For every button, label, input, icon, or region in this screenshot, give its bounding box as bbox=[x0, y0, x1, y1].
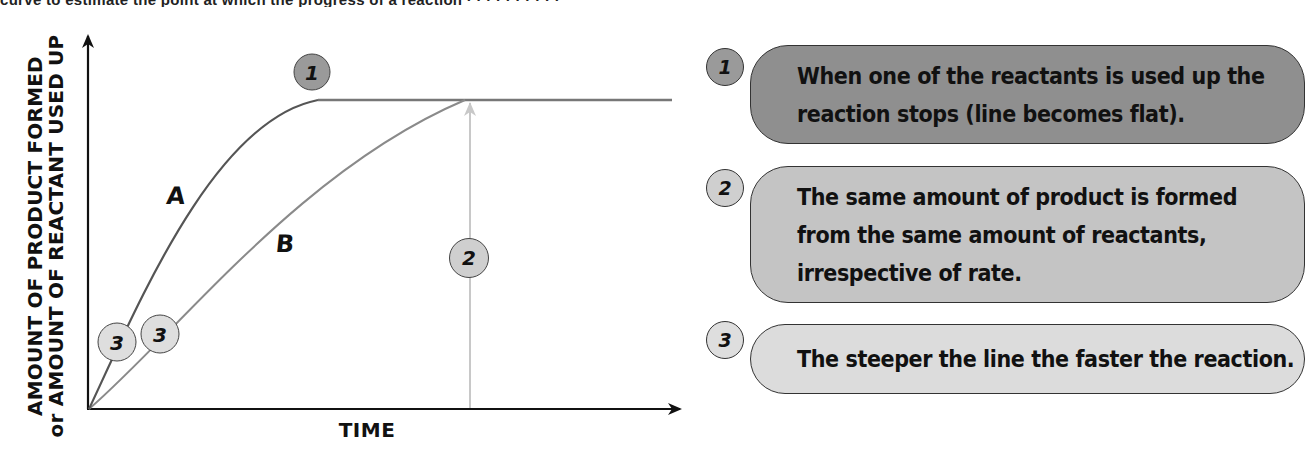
chart-canvas bbox=[0, 0, 700, 455]
callout-2-line-3: irrespective of rate. bbox=[797, 254, 1294, 292]
callout-box-2: The same amount of product is formed fro… bbox=[750, 166, 1305, 303]
y-axis-label-line-1: AMOUNT OF PRODUCT FORMED bbox=[25, 35, 46, 438]
callout-box-3: The steeper the line the faster the reac… bbox=[750, 324, 1305, 394]
curve-a-label: A bbox=[165, 182, 187, 210]
callout-number-1: 1 bbox=[706, 48, 744, 86]
y-axis-label-line-2: or AMOUNT OF REACTANT USED UP bbox=[46, 35, 67, 438]
callout-2-line-1: The same amount of product is formed bbox=[797, 178, 1294, 216]
marker-3-curve-b: 3 bbox=[141, 315, 180, 354]
curve-b-label: B bbox=[274, 230, 295, 258]
callout-2-line-2: from the same amount of reactants, bbox=[797, 216, 1294, 254]
x-axis-label: TIME bbox=[339, 418, 396, 442]
marker-1-plateau: 1 bbox=[294, 54, 331, 91]
y-axis-label: AMOUNT OF PRODUCT FORMED or AMOUNT OF RE… bbox=[25, 35, 67, 438]
callout-box-1: When one of the reactants is used up the… bbox=[750, 45, 1305, 144]
marker-2-equal-product: 2 bbox=[449, 238, 489, 278]
reaction-progress-chart: AMOUNT OF PRODUCT FORMED or AMOUNT OF RE… bbox=[0, 0, 700, 455]
callout-1-line-1: When one of the reactants is used up the bbox=[797, 57, 1294, 95]
callout-number-2: 2 bbox=[706, 169, 744, 207]
callout-number-3: 3 bbox=[706, 321, 744, 359]
marker-3-curve-a: 3 bbox=[98, 323, 137, 362]
callout-1-line-2: reaction stops (line becomes flat). bbox=[797, 95, 1294, 133]
callout-3-line-1: The steeper the line the faster the reac… bbox=[797, 340, 1294, 378]
